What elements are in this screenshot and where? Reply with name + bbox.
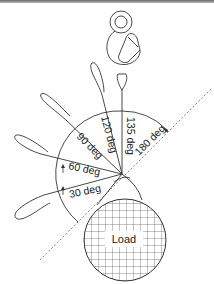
load-circle: Load <box>84 199 166 281</box>
angle-label-90: 90 deg <box>75 130 106 161</box>
angle-label-60: 60 deg <box>68 159 102 177</box>
load-label: Load <box>112 233 136 245</box>
hook-icon <box>107 11 140 65</box>
angle-label-30: 30 deg <box>68 182 102 200</box>
sling-angle-diagram: Load 30 deg 60 deg 90 deg 120 deg 135 de… <box>0 0 214 284</box>
